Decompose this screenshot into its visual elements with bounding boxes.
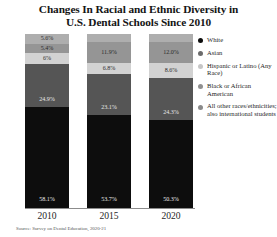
chart-title-line-2: U.S. Dental Schools Since 2010 — [0, 16, 277, 29]
legend-label: All other races/ethnicities; also intern… — [207, 102, 277, 117]
legend-label: Hispanic or Latino (Any Race) — [207, 62, 277, 77]
legend-swatch-icon — [198, 84, 203, 89]
bar-segment-black-african-american-2020[interactable]: 24.3% — [149, 78, 193, 120]
segment-value-label: 5.4% — [41, 45, 54, 52]
segment-value-label: 23.1% — [101, 104, 117, 111]
x-axis-label-2015: 2015 — [87, 209, 131, 225]
segment-value-label: 11.9% — [101, 49, 117, 56]
source-note: Source: Survey on Dental Education, 2020… — [16, 226, 106, 232]
bar-segment-asian-2010[interactable]: 5.4% — [25, 44, 69, 53]
x-axis-label-2020: 2020 — [149, 209, 193, 225]
bar-segment-asian-2020[interactable]: 12.0% — [149, 42, 193, 63]
legend-item-2[interactable]: Hispanic or Latino (Any Race) — [198, 62, 277, 77]
bar-segment-all-other-2010[interactable]: 5.6% — [25, 34, 69, 44]
x-axis-label-2010: 2010 — [25, 209, 69, 225]
bar-segment-hispanic-latino-2015[interactable]: 6.8% — [87, 63, 131, 75]
legend-label: Asian — [207, 49, 222, 57]
legend-item-3[interactable]: Black or African American — [198, 82, 277, 97]
plot-area: 5.6%5.4%6%24.9%58.1%11.9%6.8%23.1%53.7%1… — [25, 34, 193, 208]
legend-swatch-icon — [198, 64, 203, 69]
segment-value-label: 24.9% — [39, 96, 55, 103]
x-axis-labels: 201020152020 — [25, 209, 193, 225]
bar-segment-black-african-american-2010[interactable]: 24.9% — [25, 64, 69, 107]
segment-value-label: 8.6% — [165, 67, 178, 74]
chart-title-line-1: Changes In Racial and Ethnic Diversity i… — [0, 3, 277, 16]
legend-swatch-icon — [198, 51, 203, 56]
bar-2015[interactable]: 11.9%6.8%23.1%53.7% — [87, 34, 131, 208]
segment-value-label: 5.6% — [41, 35, 54, 42]
legend-item-1[interactable]: Asian — [198, 49, 277, 57]
segment-value-label: 6% — [43, 55, 51, 62]
segment-value-label: 12.0% — [163, 49, 179, 56]
bar-segment-white-2015[interactable]: 53.7% — [87, 115, 131, 208]
stacked-bars: 5.6%5.4%6%24.9%58.1%11.9%6.8%23.1%53.7%1… — [25, 34, 193, 208]
bar-segment-white-2020[interactable]: 50.3% — [149, 120, 193, 208]
bar-segment-all-other-2020[interactable] — [149, 34, 193, 42]
bar-segment-all-other-2015[interactable] — [87, 34, 131, 42]
bar-segment-hispanic-latino-2010[interactable]: 6% — [25, 53, 69, 63]
legend-label: Black or African American — [207, 82, 277, 97]
segment-value-label: 53.7% — [101, 196, 117, 203]
legend-item-0[interactable]: White — [198, 36, 277, 44]
chart-title: Changes In Racial and Ethnic Diversity i… — [0, 3, 277, 29]
legend-swatch-icon — [198, 105, 203, 110]
segment-value-label: 50.3% — [163, 196, 179, 203]
segment-value-label: 58.1% — [39, 196, 55, 203]
chart-container: Changes In Racial and Ethnic Diversity i… — [0, 0, 277, 237]
bar-2010[interactable]: 5.6%5.4%6%24.9%58.1% — [25, 34, 69, 208]
segment-value-label: 24.3% — [163, 109, 179, 116]
bar-2020[interactable]: 12.0%8.6%24.3%50.3% — [149, 34, 193, 208]
segment-value-label: 6.8% — [103, 65, 116, 72]
legend: WhiteAsianHispanic or Latino (Any Race)B… — [198, 36, 277, 123]
bar-segment-white-2010[interactable]: 58.1% — [25, 107, 69, 208]
legend-item-4[interactable]: All other races/ethnicities; also intern… — [198, 102, 277, 117]
bar-segment-black-african-american-2015[interactable]: 23.1% — [87, 74, 131, 114]
bar-segment-asian-2015[interactable]: 11.9% — [87, 42, 131, 63]
legend-swatch-icon — [198, 38, 203, 43]
bar-segment-hispanic-latino-2020[interactable]: 8.6% — [149, 63, 193, 78]
legend-label: White — [207, 36, 223, 44]
